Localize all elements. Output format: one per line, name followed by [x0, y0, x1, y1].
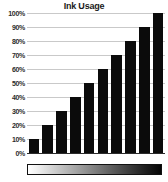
y-axis-tick-label: 50% [12, 80, 25, 87]
bar[interactable] [29, 139, 40, 153]
bar[interactable] [84, 83, 95, 153]
bar-slot [137, 13, 151, 153]
bar-slot [68, 13, 82, 153]
bar-slot [124, 13, 138, 153]
bar[interactable] [139, 27, 150, 153]
y-axis-tick-label: 60% [12, 66, 25, 73]
bar-slot [41, 13, 55, 153]
ink-usage-chart: Ink Usage 100%90%80%70%60%50%40%30%20%10… [0, 0, 168, 182]
bars-container [27, 13, 165, 153]
gridline [27, 153, 165, 154]
y-axis-tick-label: 70% [12, 52, 25, 59]
plot-wrapper: 100%90%80%70%60%50%40%30%20%10%0% [0, 13, 168, 156]
plot-area [27, 13, 165, 153]
bar[interactable] [70, 97, 81, 153]
bar-slot [96, 13, 110, 153]
y-axis-tick-label: 90% [12, 24, 25, 31]
bar[interactable] [125, 41, 136, 153]
bar-slot [82, 13, 96, 153]
ink-gradient-swatch [28, 165, 161, 174]
y-axis-tick-label: 0% [15, 150, 25, 157]
ink-gradient-legend [27, 164, 162, 175]
bar[interactable] [111, 55, 122, 153]
y-axis-tick-label: 10% [12, 136, 25, 143]
bar[interactable] [98, 69, 109, 153]
bar-slot [110, 13, 124, 153]
bar-slot [55, 13, 69, 153]
bar[interactable] [56, 111, 67, 153]
y-axis-tick-label: 80% [12, 38, 25, 45]
y-axis-tick-label: 20% [12, 122, 25, 129]
y-axis-tick-label: 30% [12, 108, 25, 115]
y-axis-tick-label: 100% [8, 10, 25, 17]
bar[interactable] [42, 125, 53, 153]
y-axis: 100%90%80%70%60%50%40%30%20%10%0% [0, 13, 27, 156]
y-axis-tick-label: 40% [12, 94, 25, 101]
bar-slot [27, 13, 41, 153]
bar-slot [151, 13, 165, 153]
bar[interactable] [153, 13, 164, 153]
